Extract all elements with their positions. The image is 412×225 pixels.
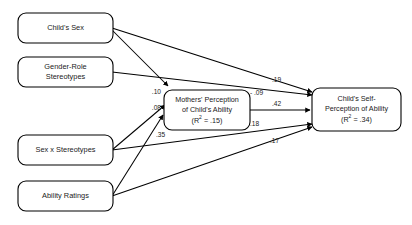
coef-sex-to-self: .19	[272, 76, 281, 83]
node-self-r2-close: = .34)	[351, 115, 372, 124]
node-child-self-perception[interactable]: Child's Self- Perception of Ability (R2 …	[312, 88, 401, 131]
node-ability-ratings[interactable]: Ability Ratings	[18, 181, 113, 211]
coef-ability-to-self: .17	[270, 137, 279, 144]
node-child-self-perception-line1: Child's Self-	[337, 94, 376, 103]
coef-sex-to-mothers: .10	[152, 88, 161, 95]
node-self-r2-open: (R	[341, 115, 349, 124]
node-childs-sex-label: Child's Sex	[47, 23, 84, 32]
node-mothers-perception[interactable]: Mothers' Perception of Child's Ability (…	[164, 90, 250, 130]
node-gender-role-label-line1: Gender-Role	[44, 62, 86, 71]
arrow-ability-to-mothers	[112, 115, 163, 196]
node-mothers-perception-line1: Mothers' Perception	[175, 95, 239, 104]
node-mothers-r2-open: (R	[192, 115, 200, 124]
coef-mothers-to-self: .42	[272, 100, 281, 107]
node-ability-ratings-label: Ability Ratings	[42, 191, 89, 200]
node-child-self-perception-r2: (R2 = .34)	[341, 113, 372, 124]
path-diagram: Child's Sex Gender-Role Stereotypes Sex …	[0, 0, 412, 225]
coef-ability-to-mothers: .35	[156, 131, 165, 138]
node-childs-sex[interactable]: Child's Sex	[18, 13, 113, 43]
coef-sexstereo-to-mothers: .08	[152, 104, 161, 111]
node-gender-role-stereotypes[interactable]: Gender-Role Stereotypes	[18, 57, 113, 87]
node-mothers-perception-r2: (R2 = .15)	[192, 114, 223, 125]
coef-sexstereo-to-self: .18	[250, 120, 259, 127]
node-mothers-r2-close: = .15)	[202, 115, 223, 124]
diagram-canvas: Child's Sex Gender-Role Stereotypes Sex …	[0, 0, 412, 225]
arrow-sexstereo-to-mothers	[112, 105, 165, 150]
node-sex-x-stereotypes-label: Sex x Stereotypes	[36, 145, 96, 154]
node-sex-x-stereotypes[interactable]: Sex x Stereotypes	[18, 135, 113, 165]
node-mothers-perception-line2: of Child's Ability	[182, 105, 233, 114]
coef-gender-to-self: - .09	[250, 89, 264, 96]
node-child-self-perception-line2: Perception of Ability	[325, 104, 389, 113]
node-gender-role-label-line2: Stereotypes	[46, 72, 86, 81]
